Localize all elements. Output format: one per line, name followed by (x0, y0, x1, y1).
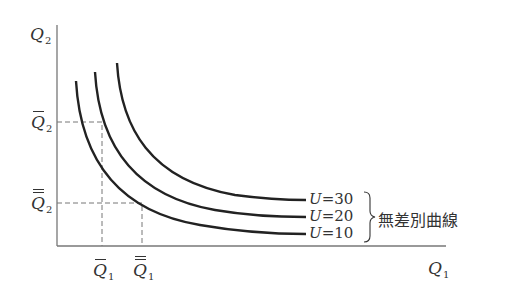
tick-q1-double-bar: Q1 (133, 262, 154, 282)
brace (364, 192, 375, 242)
indifference-curves-label: 無差別曲線 (378, 207, 458, 231)
tick-q1-bar: Q1 (93, 262, 114, 282)
curve-label-u10: U=10 (309, 226, 353, 241)
dashed-guide-q2-double-bar (57, 203, 142, 246)
indifference-curve-u30 (117, 63, 306, 200)
indifference-curve-u10 (76, 81, 306, 234)
y-axis-label: Q2 (30, 26, 51, 46)
dashed-guide-q2-bar (57, 122, 102, 246)
tick-q2-double-bar: Q2 (31, 195, 52, 215)
curve-label-u30: U=30 (309, 192, 353, 207)
curve-label-u20: U=20 (309, 209, 353, 224)
tick-q2-bar: Q2 (31, 114, 52, 134)
x-axis-label: Q1 (428, 260, 449, 280)
indifference-curve-diagram (0, 0, 506, 296)
